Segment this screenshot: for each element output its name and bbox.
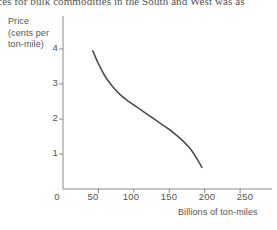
- demand-curve-line: [93, 51, 202, 168]
- chart-figure: Price (cents per ton-mile) 4 3 2 1 0 50 …: [0, 12, 277, 230]
- y-axis-ticks: [59, 49, 63, 154]
- chart-plot-area: [0, 12, 277, 230]
- truncated-caption-text: ices for bulk commodities in the South a…: [0, 0, 277, 7]
- axis-lines: [63, 16, 272, 189]
- truncated-caption: ices for bulk commodities in the South a…: [0, 0, 277, 12]
- x-axis-ticks: [98, 189, 240, 193]
